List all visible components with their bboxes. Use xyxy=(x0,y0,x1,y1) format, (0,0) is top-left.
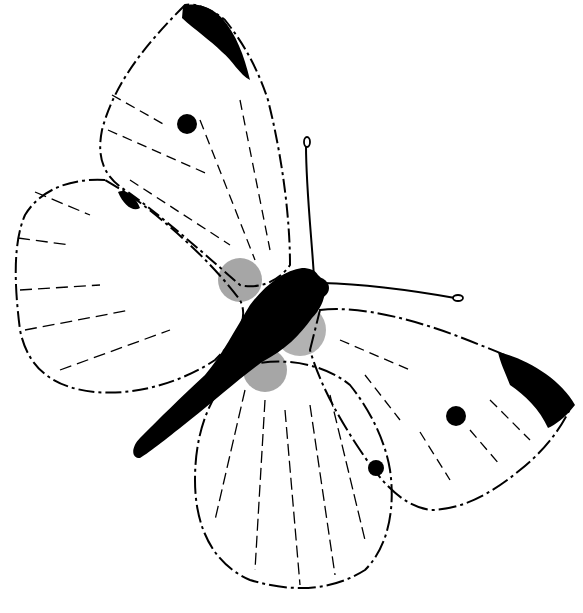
antenna-club-top xyxy=(304,137,310,147)
left-forewing-spot xyxy=(177,114,197,134)
butterfly-illustration xyxy=(0,0,583,613)
right-hindwing-patch xyxy=(368,460,384,476)
right-forewing-spot xyxy=(446,406,466,426)
antenna-club-right xyxy=(453,295,463,301)
butterfly-head xyxy=(303,277,329,299)
